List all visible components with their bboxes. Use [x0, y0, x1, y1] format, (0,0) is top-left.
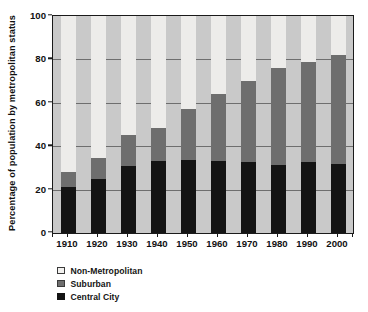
legend-swatch-icon	[57, 267, 65, 275]
x-axis-tick-mark	[217, 233, 218, 237]
y-axis-tick-label: 60	[6, 96, 46, 107]
bar-segment-central-city-1920	[91, 179, 106, 233]
bar-segment-non-metropolitan-1930	[121, 16, 136, 135]
bar-segment-central-city-1950	[181, 160, 196, 233]
bar-segment-suburban-1920	[91, 158, 106, 179]
chart-figure: Percentage of population by metropolitan…	[0, 0, 368, 312]
bar-group-1980	[271, 16, 286, 233]
bar-segment-non-metropolitan-1970	[241, 16, 256, 81]
bar-group-2000	[331, 16, 346, 233]
bar-segment-central-city-1960	[211, 161, 226, 233]
bar-segment-suburban-1910	[61, 172, 76, 187]
y-axis-tick-label: 80	[6, 53, 46, 64]
x-axis-tick-mark	[352, 233, 353, 237]
plot-area	[52, 15, 354, 234]
bar-segment-central-city-2000	[331, 164, 346, 233]
x-axis-tick-mark	[247, 233, 248, 237]
legend-label: Suburban	[71, 279, 112, 289]
legend-swatch-icon	[57, 280, 65, 288]
bar-segment-suburban-1980	[271, 68, 286, 165]
bar-segment-central-city-1980	[271, 165, 286, 233]
bar-segment-suburban-1950	[181, 109, 196, 160]
bar-segment-non-metropolitan-1940	[151, 16, 166, 128]
bar-segment-non-metropolitan-1950	[181, 16, 196, 109]
bar-segment-non-metropolitan-1980	[271, 16, 286, 68]
y-axis-tick-label: 0	[6, 227, 46, 238]
y-axis-tick-label: 100	[6, 10, 46, 21]
bar-segment-non-metropolitan-1990	[301, 16, 316, 62]
bar-segment-central-city-1910	[61, 187, 76, 233]
x-axis-tick-mark	[157, 233, 158, 237]
bar-segment-non-metropolitan-2000	[331, 16, 346, 55]
bar-segment-non-metropolitan-1910	[61, 16, 76, 172]
bar-segment-central-city-1990	[301, 162, 316, 233]
x-axis-tick-mark	[97, 233, 98, 237]
bar-segment-suburban-1970	[241, 81, 256, 162]
bar-segment-central-city-1930	[121, 166, 136, 233]
legend-label: Central City	[71, 292, 120, 302]
bar-segment-suburban-2000	[331, 55, 346, 164]
x-axis-tick-mark	[307, 233, 308, 237]
bar-segment-suburban-1990	[301, 62, 316, 163]
x-axis-tick-mark	[127, 233, 128, 237]
x-axis-tick-label-2000: 2000	[317, 238, 357, 249]
legend-item-central-city[interactable]: Central City	[57, 290, 257, 303]
x-axis-tick-mark	[187, 233, 188, 237]
bar-group-1950	[181, 16, 196, 233]
bar-group-1990	[301, 16, 316, 233]
bar-group-1920	[91, 16, 106, 233]
bar-segment-central-city-1970	[241, 162, 256, 233]
bar-group-1960	[211, 16, 226, 233]
y-axis-tick-label: 40	[6, 140, 46, 151]
bar-segment-suburban-1960	[211, 94, 226, 161]
chart-legend: Non-MetropolitanSuburbanCentral City	[57, 264, 257, 303]
bar-segment-suburban-1930	[121, 135, 136, 165]
y-axis-title-container: Percentage of population by metropolitan…	[0, 10, 26, 235]
x-axis-tick-mark	[67, 233, 68, 237]
y-axis-tick-label: 20	[6, 183, 46, 194]
y-axis-title: Percentage of population by metropolitan…	[7, 14, 19, 230]
bar-group-1930	[121, 16, 136, 233]
x-axis-tick-mark	[52, 233, 53, 237]
legend-item-suburban[interactable]: Suburban	[57, 277, 257, 290]
bar-segment-suburban-1940	[151, 128, 166, 162]
bar-segment-non-metropolitan-1920	[91, 16, 106, 158]
bar-segment-central-city-1940	[151, 161, 166, 233]
legend-item-non-metropolitan[interactable]: Non-Metropolitan	[57, 264, 257, 277]
x-axis-tick-mark	[337, 233, 338, 237]
bar-segment-non-metropolitan-1960	[211, 16, 226, 94]
legend-swatch-icon	[57, 293, 65, 301]
bar-group-1940	[151, 16, 166, 233]
bar-group-1910	[61, 16, 76, 233]
legend-label: Non-Metropolitan	[71, 266, 143, 276]
x-axis-tick-mark	[277, 233, 278, 237]
bar-group-1970	[241, 16, 256, 233]
